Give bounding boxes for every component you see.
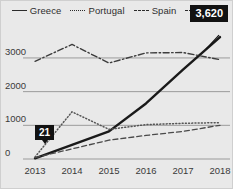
legend-item-portugal[interactable]: Portugal (70, 5, 124, 16)
legend-swatch-dotted-icon (70, 6, 85, 14)
legend-swatch-dashed-icon (134, 6, 149, 14)
x-axis-tick-label: 2018 (203, 165, 233, 176)
callout-leader-lines (206, 35, 219, 49)
legend-item-greece[interactable]: Greece (12, 5, 62, 16)
end-callout-leader-line (206, 35, 219, 49)
legend-label-portugal: Portugal (88, 5, 124, 16)
legend-label-spain: Spain (152, 5, 177, 16)
legend-item-spain[interactable]: Spain (134, 5, 177, 16)
y-axis-tick-label: 1000 (5, 113, 26, 124)
series-lines (35, 37, 220, 158)
x-axis-tick-label: 2013 (18, 165, 52, 176)
series-line-spain (35, 125, 220, 157)
line-chart-card: Greece Portugal Spain USA 0100020003000 … (0, 0, 233, 189)
x-axis-tick-label: 2015 (92, 165, 126, 176)
y-axis-tick-label: 2000 (5, 80, 26, 91)
x-axis-tick-label: 2016 (129, 165, 163, 176)
plot-area: 0100020003000 201320142015201620172018 (1, 19, 233, 189)
plot-svg (1, 19, 233, 189)
y-axis-tick-label: 0 (5, 147, 10, 158)
x-axis-tick-label: 2017 (166, 165, 200, 176)
legend-label-greece: Greece (30, 5, 62, 16)
y-axis-tick-label: 3000 (5, 46, 26, 57)
legend-swatch-solid-icon (12, 6, 27, 14)
end-value-callout: 3,620 (190, 5, 228, 22)
gridlines (23, 58, 230, 159)
x-axis-tick-label: 2014 (55, 165, 89, 176)
start-value-callout: 21 (35, 125, 54, 140)
series-line-greece (35, 37, 220, 158)
start-callout-pointer-icon (42, 140, 48, 144)
